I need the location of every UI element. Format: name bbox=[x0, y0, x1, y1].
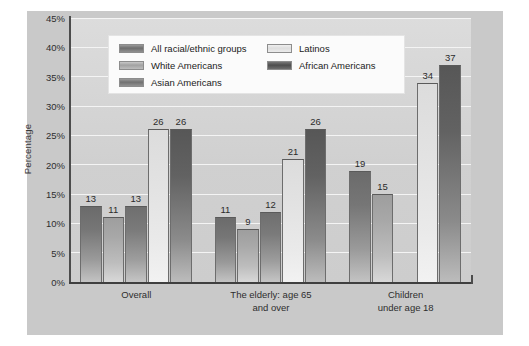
y-axis-tick-label: 10% bbox=[26, 218, 65, 229]
y-axis-line bbox=[69, 16, 71, 284]
y-axis-tick-label: 40% bbox=[26, 42, 65, 53]
bar-value-label: 34 bbox=[411, 70, 445, 81]
legend-swatch-icon bbox=[267, 44, 292, 53]
legend-label: All racial/ethnic groups bbox=[151, 41, 247, 56]
x-axis-line bbox=[69, 282, 473, 284]
legend-swatch-icon bbox=[119, 44, 144, 53]
gridline bbox=[71, 18, 471, 19]
bar-value-label: 11 bbox=[97, 204, 131, 215]
bar-value-label: 19 bbox=[343, 158, 377, 169]
legend-swatch-icon bbox=[119, 61, 144, 70]
legend-label: Latinos bbox=[299, 41, 330, 56]
bar-value-label: 26 bbox=[164, 116, 198, 127]
legend-label: White Americans bbox=[151, 58, 222, 73]
y-axis-tick-label: 35% bbox=[26, 71, 65, 82]
x-axis-group-label: Overall bbox=[76, 289, 196, 302]
y-axis-tick-label: 45% bbox=[26, 13, 65, 24]
y-axis-tick-label: 30% bbox=[26, 101, 65, 112]
legend-label: Asian Americans bbox=[151, 75, 222, 90]
legend-swatch-icon bbox=[119, 78, 144, 87]
chart-legend: All racial/ethnic groupsWhite AmericansA… bbox=[108, 35, 405, 94]
y-axis-tick-label: 0% bbox=[26, 277, 65, 288]
bar-value-label: 26 bbox=[299, 116, 333, 127]
bar bbox=[148, 129, 170, 282]
gridline bbox=[71, 135, 471, 136]
chart-figure: Percentage 0%5%10%15%20%25%30%35%40%45% … bbox=[0, 0, 529, 346]
bar-value-label: 9 bbox=[231, 216, 265, 227]
bar-value-label: 13 bbox=[119, 193, 153, 204]
bar-value-label: 21 bbox=[276, 146, 310, 157]
legend-swatch-icon bbox=[267, 61, 292, 70]
gridline bbox=[71, 164, 471, 165]
bar bbox=[372, 194, 394, 282]
x-axis-group-label: Children under age 18 bbox=[346, 289, 466, 314]
bar bbox=[80, 206, 102, 282]
x-axis-group-label: The elderly: age 65 and over bbox=[211, 289, 331, 314]
bar bbox=[282, 159, 304, 282]
bar bbox=[125, 206, 147, 282]
bar-value-label: 12 bbox=[254, 199, 288, 210]
x-axis-end-tick bbox=[471, 275, 473, 284]
gridline bbox=[71, 106, 471, 107]
bar bbox=[439, 65, 461, 282]
y-axis-tick-label: 25% bbox=[26, 130, 65, 141]
y-axis-tick-label: 5% bbox=[26, 247, 65, 258]
bar bbox=[237, 229, 259, 282]
bar-value-label: 15 bbox=[366, 181, 400, 192]
bar-value-label: 13 bbox=[74, 193, 108, 204]
bar bbox=[417, 83, 439, 282]
bar bbox=[170, 129, 192, 282]
y-axis-tick-label: 20% bbox=[26, 159, 65, 170]
y-axis-tick-label: 15% bbox=[26, 189, 65, 200]
y-axis-tick-labels: 0%5%10%15%20%25%30%35%40%45% bbox=[26, 18, 65, 282]
bar bbox=[103, 217, 125, 282]
bar-value-label: 37 bbox=[433, 52, 467, 63]
legend-label: African Americans bbox=[299, 58, 376, 73]
bar-value-label: 11 bbox=[209, 204, 243, 215]
